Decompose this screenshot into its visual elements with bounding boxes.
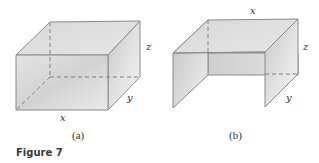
box-b-x-label: x <box>250 5 256 16</box>
panel-b-label: (b) <box>229 129 242 142</box>
closed-box-diagram: x y z (a) <box>16 21 152 142</box>
panel-a-label: (a) <box>72 129 85 142</box>
box-b-y-label: y <box>285 92 292 103</box>
figure-caption: Figure 7 <box>16 147 63 158</box>
box-a-z-label: z <box>145 41 152 52</box>
box-b-z-label: z <box>302 41 309 52</box>
box-a-y-label: y <box>126 92 133 103</box>
box-a-x-label: x <box>60 112 66 123</box>
open-box-diagram: x y z (b) <box>173 5 309 142</box>
figure-diagram: x y z (a) x y z (b) <box>0 0 319 163</box>
box-a-front-face <box>16 55 108 110</box>
